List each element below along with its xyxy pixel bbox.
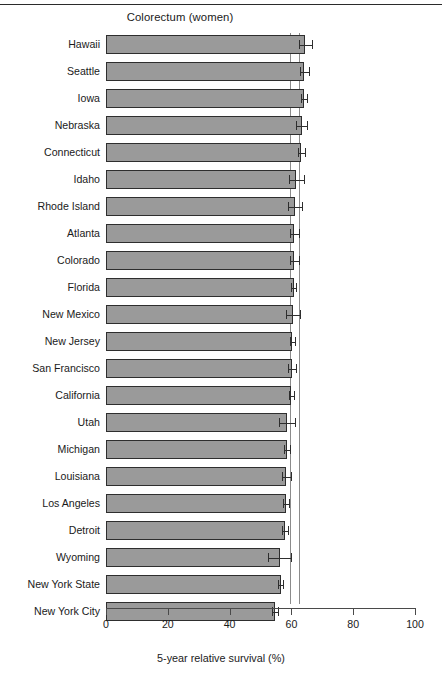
error-bar	[279, 423, 296, 424]
category-label: California	[4, 389, 100, 401]
category-label: Idaho	[4, 173, 100, 185]
bar-row	[106, 438, 415, 465]
bar	[106, 305, 293, 324]
x-tick	[106, 608, 107, 615]
error-bar	[296, 126, 307, 127]
x-tick-label: 100	[406, 618, 424, 630]
error-cap-high	[296, 283, 297, 292]
category-label: Colorado	[4, 254, 100, 266]
bar-row	[106, 87, 415, 114]
error-cap-low	[283, 499, 284, 508]
category-label: San Francisco	[4, 362, 100, 374]
bar-row	[106, 546, 415, 573]
bar	[106, 143, 301, 162]
error-cap-high	[309, 67, 310, 76]
category-label: New York City	[4, 605, 100, 617]
error-cap-low	[290, 337, 291, 346]
error-cap-low	[291, 283, 292, 292]
error-cap-low	[301, 94, 302, 103]
category-label: Louisiana	[4, 470, 100, 482]
error-cap-high	[307, 121, 308, 130]
x-tick-label: 20	[162, 618, 174, 630]
category-label: Hawaii	[4, 38, 100, 50]
error-cap-high	[295, 337, 296, 346]
bar	[106, 602, 275, 621]
error-cap-high	[305, 148, 306, 157]
bar-row	[106, 303, 415, 330]
category-label: Atlanta	[4, 227, 100, 239]
bar	[106, 251, 294, 270]
error-cap-low	[282, 472, 283, 481]
error-cap-high	[299, 256, 300, 265]
error-cap-high	[288, 526, 289, 535]
error-bar	[286, 315, 300, 316]
error-cap-high	[291, 553, 292, 562]
category-label: Rhode Island	[4, 200, 100, 212]
x-tick	[230, 608, 231, 615]
x-tick-label: 40	[224, 618, 236, 630]
error-cap-low	[278, 580, 279, 589]
bar	[106, 467, 286, 486]
x-tick-label: 80	[347, 618, 359, 630]
category-label: Seattle	[4, 65, 100, 77]
error-cap-low	[288, 364, 289, 373]
bar-row	[106, 222, 415, 249]
x-tick	[168, 608, 169, 615]
bar-row	[106, 357, 415, 384]
error-cap-high	[294, 391, 295, 400]
error-bar	[290, 234, 299, 235]
error-cap-high	[304, 175, 305, 184]
error-cap-low	[300, 67, 301, 76]
bar	[106, 413, 287, 432]
header-divider	[0, 4, 442, 5]
error-cap-high	[296, 364, 297, 373]
error-bar	[268, 558, 291, 559]
error-cap-low	[284, 445, 285, 454]
bar	[106, 386, 291, 405]
error-cap-high	[291, 472, 292, 481]
category-label: New York State	[4, 578, 100, 590]
error-cap-low	[298, 148, 299, 157]
error-cap-high	[307, 94, 308, 103]
error-bar	[282, 477, 291, 478]
bar	[106, 494, 286, 513]
error-cap-low	[289, 175, 290, 184]
error-cap-low	[286, 310, 287, 319]
error-bar	[300, 72, 309, 73]
bar-row	[106, 492, 415, 519]
category-label: Nebraska	[4, 119, 100, 131]
bar-row	[106, 573, 415, 600]
bar-row	[106, 195, 415, 222]
error-cap-low	[296, 121, 297, 130]
error-cap-low	[282, 526, 283, 535]
bar-row	[106, 168, 415, 195]
bar-row	[106, 519, 415, 546]
x-tick-label: 60	[285, 618, 297, 630]
category-axis-labels: HawaiiSeattleIowaNebraskaConnecticutIdah…	[0, 33, 100, 604]
error-cap-high	[295, 418, 296, 427]
bar	[106, 224, 294, 243]
bar	[106, 575, 281, 594]
error-bar	[298, 153, 305, 154]
category-label: Michigan	[4, 443, 100, 455]
category-label: Iowa	[4, 92, 100, 104]
chart-figure: Colorectum (women) HawaiiSeattleIowaNebr…	[0, 0, 442, 682]
error-cap-low	[279, 418, 280, 427]
category-label: Detroit	[4, 524, 100, 536]
error-bar	[288, 207, 302, 208]
bar	[106, 89, 304, 108]
bar-row	[106, 249, 415, 276]
error-cap-low	[290, 229, 291, 238]
category-label: Connecticut	[4, 146, 100, 158]
bar	[106, 440, 287, 459]
bar-row	[106, 60, 415, 87]
error-cap-low	[289, 391, 290, 400]
bar-row	[106, 384, 415, 411]
x-tick	[415, 608, 416, 615]
bar	[106, 521, 285, 540]
x-axis-line	[106, 608, 415, 609]
error-cap-high	[290, 445, 291, 454]
bar-row	[106, 141, 415, 168]
error-bar	[290, 261, 299, 262]
error-cap-high	[283, 580, 284, 589]
